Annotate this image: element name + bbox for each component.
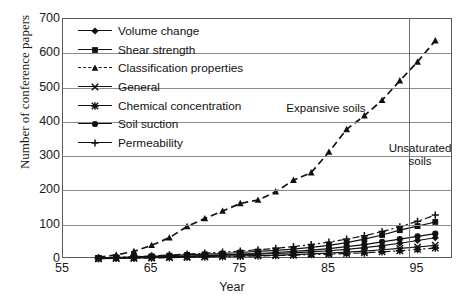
legend-item-classification-properties[interactable]: Classification properties xyxy=(78,59,273,78)
legend-label: Permeability xyxy=(112,136,183,150)
chart-legend: Volume changeShear strengthClassificatio… xyxy=(78,22,273,152)
gridline-200 xyxy=(63,190,451,191)
legend-marker-star-icon xyxy=(78,99,112,113)
era-divider-line xyxy=(409,19,410,257)
x-axis-title: Year xyxy=(0,280,464,294)
legend-key-square-icon xyxy=(78,43,112,57)
legend-label: General xyxy=(112,80,160,94)
legend-label: Volume change xyxy=(112,24,199,38)
legend-label: Soil suction xyxy=(112,117,178,131)
legend-key-diamond-icon xyxy=(78,24,112,38)
x-tick-75: 75 xyxy=(232,262,246,275)
x-tick-85: 85 xyxy=(321,262,335,275)
legend-item-volume-change[interactable]: Volume change xyxy=(78,22,273,41)
legend-marker-square-icon xyxy=(78,43,112,57)
legend-marker-circle-icon xyxy=(78,117,112,131)
legend-label: Chemical concentration xyxy=(112,99,241,113)
y-axis-title: Number of conference papers xyxy=(17,0,33,207)
legend-item-permeability[interactable]: Permeability xyxy=(78,134,273,153)
legend-key-star-icon xyxy=(78,99,112,113)
x-tick-55: 55 xyxy=(55,262,69,275)
legend-marker-plus-icon xyxy=(78,136,112,150)
legend-key-x-icon xyxy=(78,80,112,94)
legend-key-plus-icon xyxy=(78,136,112,150)
legend-item-chemical-concentration[interactable]: Chemical concentration xyxy=(78,96,273,115)
legend-marker-x-icon xyxy=(78,80,112,94)
annotation-unsaturated-soils: Unsaturated soils xyxy=(387,142,453,168)
legend-label: Shear strength xyxy=(112,43,195,57)
legend-label: Classification properties xyxy=(112,61,243,75)
legend-item-general[interactable]: General xyxy=(78,78,273,97)
legend-item-shear-strength[interactable]: Shear strength xyxy=(78,41,273,60)
legend-key-triangle-icon xyxy=(78,61,112,75)
x-tick-95: 95 xyxy=(410,262,424,275)
x-tick-65: 65 xyxy=(144,262,158,275)
legend-marker-triangle-icon xyxy=(78,61,112,75)
annotation-expansive-soils: Expansive soils xyxy=(261,102,391,115)
y-tick-100: 100 xyxy=(4,217,60,230)
legend-item-soil-suction[interactable]: Soil suction xyxy=(78,115,273,134)
chart-figure: 700 600 500 400 300 200 100 0 55 65 75 8… xyxy=(0,0,464,304)
legend-key-circle-icon xyxy=(78,117,112,131)
y-tick-0: 0 xyxy=(4,252,60,265)
gridline-100 xyxy=(63,225,451,226)
legend-marker-diamond-icon xyxy=(78,24,112,38)
